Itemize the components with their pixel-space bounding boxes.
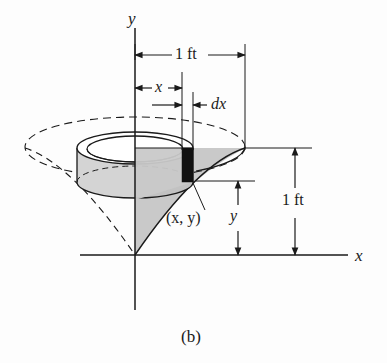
dimension-label-shell-thickness: dx (211, 96, 226, 112)
point-coordinate-label: (x, y) (166, 210, 201, 226)
figure-caption: (b) (181, 328, 201, 345)
dimension-label-height-y: y (230, 208, 237, 224)
differential-element-dx (182, 148, 193, 182)
dimension-label-top-width: 1 ft (175, 46, 197, 62)
dimension-label-height-total: 1 ft (282, 192, 304, 208)
x-axis-label: x (355, 247, 363, 264)
figure-container: y x 1 ft x dx y 1 ft (x, y) (b) (0, 0, 387, 363)
point-leader-line (193, 183, 205, 210)
dimension-label-shell-radius: x (155, 79, 162, 95)
y-axis-label: y (128, 10, 136, 27)
